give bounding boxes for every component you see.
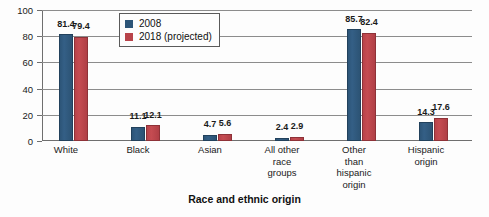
y-tick-mark: [37, 141, 42, 142]
y-tick-label: 20: [3, 111, 33, 121]
category-label-line: Hispanic: [390, 144, 462, 156]
bar-2008-hispanic-origin[interactable]: [419, 122, 433, 141]
legend-label: 2018 (projected): [139, 32, 212, 42]
category-label-other-than-hispanic-origin: Other than hispanic origin: [318, 144, 390, 190]
bar-value-label: 2.9: [286, 122, 308, 131]
plot-area: 81.4 79.4 11.1 12.1 4.7 5.6 2.4 2.9: [42, 10, 472, 141]
category-label-black: Black: [102, 144, 174, 156]
category-label-hispanic-origin: Hispanic origin: [390, 144, 462, 167]
bar-2018-other-than-hispanic-origin[interactable]: [362, 33, 376, 141]
bar-2008-asian[interactable]: [203, 135, 217, 141]
y-tick-label: 40: [3, 85, 33, 95]
bar-chart: 100 80 60 40 20 0 81.4 79.4 11.1 12.1: [0, 0, 489, 217]
y-tick-label: 60: [3, 58, 33, 68]
gridline-100: [42, 10, 472, 11]
legend-entry-2008[interactable]: 2008: [125, 17, 212, 30]
bar-2008-white[interactable]: [59, 34, 73, 141]
category-label-line: Other: [318, 144, 390, 156]
gridline-40: [42, 89, 472, 90]
category-label-line: origin: [390, 156, 462, 168]
bar-value-label: 12.1: [142, 111, 164, 120]
y-tick-label: 100: [3, 6, 33, 16]
bar-value-label: 82.4: [358, 18, 380, 27]
bar-2018-hispanic-origin[interactable]: [434, 118, 448, 141]
y-axis-tick-labels: 100 80 60 40 20 0: [0, 0, 33, 217]
bar-value-label: 5.6: [214, 119, 236, 128]
gridline-0: [42, 140, 472, 141]
bar-2008-black[interactable]: [131, 127, 145, 142]
y-tick-label: 80: [3, 32, 33, 42]
category-label-line: than: [318, 156, 390, 168]
category-label-line: White: [30, 144, 102, 156]
legend-swatch-icon: [125, 33, 133, 41]
gridline-60: [42, 62, 472, 63]
category-label-asian: Asian: [174, 144, 246, 156]
category-label-line: race: [246, 156, 318, 168]
category-label-line: Asian: [174, 144, 246, 156]
bar-2018-white[interactable]: [74, 37, 88, 141]
category-label-line: groups: [246, 167, 318, 179]
category-label-all-other-race-groups: All other race groups: [246, 144, 318, 179]
category-label-line: origin: [318, 179, 390, 191]
gridline-20: [42, 115, 472, 116]
legend-entry-2018-projected[interactable]: 2018 (projected): [125, 30, 212, 43]
chart-legend: 2008 2018 (projected): [119, 13, 220, 47]
bar-2018-all-other-race-groups[interactable]: [290, 137, 304, 141]
gridline-80: [42, 36, 472, 37]
y-tick-label: 0: [3, 137, 33, 147]
bar-2008-other-than-hispanic-origin[interactable]: [347, 29, 361, 141]
category-label-line: All other: [246, 144, 318, 156]
bar-2018-black[interactable]: [146, 125, 160, 141]
category-label-line: Black: [102, 144, 174, 156]
legend-label: 2008: [139, 19, 161, 29]
category-label-white: White: [30, 144, 102, 156]
x-axis-title: Race and ethnic origin: [0, 193, 489, 205]
legend-swatch-icon: [125, 20, 133, 28]
category-label-line: hispanic: [318, 167, 390, 179]
bar-value-label: 79.4: [70, 22, 92, 31]
bar-2018-asian[interactable]: [218, 134, 232, 141]
bar-value-label: 17.6: [430, 103, 452, 112]
bar-2008-all-other-race-groups[interactable]: [275, 138, 289, 141]
